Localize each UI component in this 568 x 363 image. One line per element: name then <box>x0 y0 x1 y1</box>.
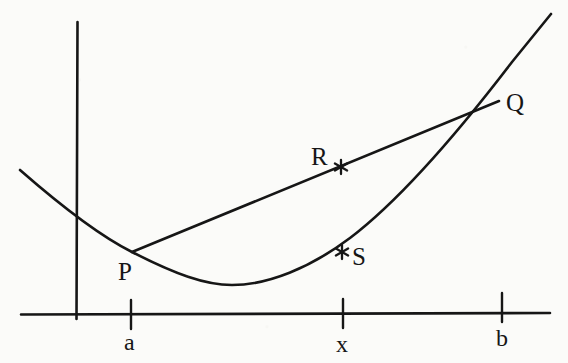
figure-canvas: P Q R S a x b <box>0 0 568 363</box>
point-label-q: Q <box>506 90 524 115</box>
tick-label-a: a <box>124 330 135 354</box>
diagram-svg <box>0 0 568 363</box>
point-label-p: P <box>118 259 132 284</box>
convex-curve <box>20 14 551 285</box>
point-label-s: S <box>352 244 366 269</box>
y-axis <box>77 22 78 319</box>
x-axis <box>21 313 550 315</box>
chord-pq <box>132 101 499 252</box>
tick-label-x: x <box>336 332 348 356</box>
point-label-r: R <box>311 144 328 169</box>
tick-label-b: b <box>496 326 508 350</box>
